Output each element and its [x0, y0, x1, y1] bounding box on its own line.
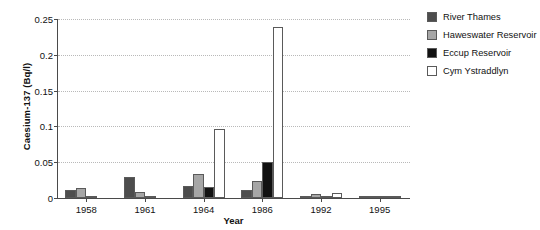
- legend-item-eccup-reservoir[interactable]: Eccup Reservoir: [427, 45, 537, 60]
- bar-1992-cym-ystraddlyn: [332, 193, 343, 198]
- legend-item-haweswater-reservoir[interactable]: Haweswater Reservoir: [427, 27, 537, 42]
- bar-1992-river-thames: [300, 196, 311, 198]
- legend-item-cym-ystraddlyn[interactable]: Cym Ystraddlyn: [427, 63, 537, 78]
- bar-1992-haweswater-reservoir: [311, 194, 322, 198]
- x-tick-mark: [380, 199, 381, 202]
- x-tick-mark: [86, 199, 87, 202]
- x-tick-label-1995: 1995: [369, 204, 390, 215]
- y-tick-mark: [54, 19, 57, 20]
- legend-swatch-icon: [427, 48, 437, 58]
- bar-group-1995: [359, 19, 401, 198]
- bar-1995-eccup-reservoir: [380, 196, 391, 198]
- bar-1961-river-thames: [124, 177, 135, 198]
- bar-1995-cym-ystraddlyn: [390, 196, 401, 198]
- x-tick-label-1958: 1958: [76, 204, 97, 215]
- y-tick-label: 0.2: [40, 49, 53, 60]
- bar-1995-river-thames: [359, 196, 370, 198]
- x-tick-label-1992: 1992: [310, 204, 331, 215]
- x-axis-title: Year: [57, 215, 410, 226]
- bar-group-1992: [300, 19, 342, 198]
- chart-figure: Caesium-137 (Bq/l) 00.050.10.150.20.25 1…: [0, 0, 540, 230]
- bar-1964-haweswater-reservoir: [193, 174, 204, 198]
- bar-1986-cym-ystraddlyn: [273, 27, 284, 198]
- y-tick-label: 0.15: [35, 85, 54, 96]
- bar-series-container: [58, 19, 410, 198]
- legend-label: Cym Ystraddlyn: [443, 66, 508, 76]
- bar-1961-haweswater-reservoir: [135, 192, 146, 198]
- y-tick-mark: [54, 55, 57, 56]
- x-tick-label-1986: 1986: [252, 204, 273, 215]
- bar-1995-haweswater-reservoir: [369, 196, 380, 198]
- legend-label: Haweswater Reservoir: [443, 30, 537, 40]
- bar-1986-eccup-reservoir: [262, 162, 273, 198]
- bar-group-1961: [124, 19, 166, 198]
- y-tick-label: 0.25: [35, 14, 54, 25]
- bar-1958-river-thames: [65, 190, 76, 198]
- legend-swatch-icon: [427, 30, 437, 40]
- x-tick-mark: [321, 199, 322, 202]
- x-tick-mark: [204, 199, 205, 202]
- x-tick-mark: [145, 199, 146, 202]
- bar-1958-eccup-reservoir: [86, 196, 97, 198]
- x-tick-label-1961: 1961: [134, 204, 155, 215]
- legend-label: Eccup Reservoir: [443, 48, 511, 58]
- x-axis-line: [57, 198, 410, 199]
- bar-1958-haweswater-reservoir: [76, 188, 87, 198]
- y-tick-mark: [54, 126, 57, 127]
- legend-label: River Thames: [443, 12, 501, 22]
- y-axis-title: Caesium-137 (Bq/l): [21, 17, 32, 197]
- bar-1992-eccup-reservoir: [321, 196, 332, 198]
- y-tick-label: 0.1: [40, 121, 53, 132]
- chart-legend: River ThamesHaweswater ReservoirEccup Re…: [427, 9, 537, 81]
- bar-group-1958: [65, 19, 107, 198]
- legend-swatch-icon: [427, 12, 437, 22]
- y-tick-label: 0: [48, 193, 53, 204]
- bar-1961-eccup-reservoir: [145, 196, 156, 198]
- y-tick-mark: [54, 198, 57, 199]
- bar-group-1986: [241, 19, 283, 198]
- plot-area: 00.050.10.150.20.25 19581961196419861992…: [57, 19, 410, 199]
- bar-1964-river-thames: [183, 186, 194, 198]
- bar-1986-river-thames: [241, 190, 252, 198]
- bar-1986-haweswater-reservoir: [252, 181, 263, 198]
- bar-1964-eccup-reservoir: [204, 187, 215, 198]
- y-tick-mark: [54, 91, 57, 92]
- legend-swatch-icon: [427, 66, 437, 76]
- x-tick-label-1964: 1964: [193, 204, 214, 215]
- bar-group-1964: [183, 19, 225, 198]
- legend-item-river-thames[interactable]: River Thames: [427, 9, 537, 24]
- x-tick-mark: [262, 199, 263, 202]
- bar-1964-cym-ystraddlyn: [214, 129, 225, 198]
- y-tick-label: 0.05: [35, 157, 54, 168]
- y-tick-mark: [54, 162, 57, 163]
